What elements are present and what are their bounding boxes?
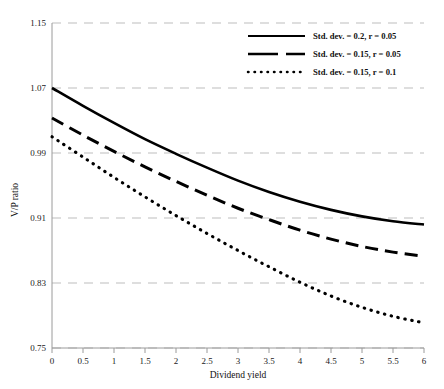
x-axis-tick-labels: 00.511.522.533.544.555.56 (50, 356, 427, 366)
x-axis-tick-label: 2 (174, 356, 179, 366)
legend-label-1: Std. dev. = 0.2, r = 0.05 (313, 31, 396, 41)
x-axis-tick-label: 3.5 (263, 356, 275, 366)
y-axis-tick-label: 0.91 (30, 213, 46, 223)
x-axis-tick-label: 2.5 (201, 356, 213, 366)
y-axis-tick-label: 0.99 (30, 148, 46, 158)
x-axis-tick-label: 6 (422, 356, 427, 366)
x-axis-tick-label: 5 (360, 356, 365, 366)
y-axis-title: V/P ratio (10, 183, 20, 217)
x-axis-tick-label: 1.5 (139, 356, 151, 366)
y-axis-tick-label: 1.15 (30, 18, 46, 28)
x-axis-tick-label: 0.5 (77, 356, 89, 366)
y-axis-tick-label: 0.75 (30, 343, 46, 353)
x-axis-tick-label: 4 (298, 356, 303, 366)
x-axis-tick-label: 4.5 (325, 356, 337, 366)
legend-label-3: Std. dev. = 0.15, r = 0.1 (313, 67, 396, 77)
series-line-2 (52, 118, 424, 256)
vp-ratio-line-chart: 00.511.522.533.544.555.56 1.151.070.990.… (0, 0, 444, 389)
x-axis-tick-label: 1 (112, 356, 117, 366)
y-axis-tick-labels: 1.151.070.990.910.830.75 (30, 18, 46, 353)
data-series-group (52, 88, 424, 323)
y-axis-tick-label: 1.07 (30, 83, 46, 93)
series-line-3 (52, 137, 424, 323)
x-axis-tick-label: 3 (236, 356, 241, 366)
y-axis-tick-label: 0.83 (30, 278, 46, 288)
x-axis-title: Dividend yield (210, 370, 267, 380)
legend-label-2: Std. dev. = 0.15, r = 0.05 (313, 49, 401, 59)
x-axis-ticks (52, 348, 424, 353)
x-axis-tick-label: 5.5 (387, 356, 399, 366)
x-axis-tick-label: 0 (50, 356, 55, 366)
chart-container: 00.511.522.533.544.555.56 1.151.070.990.… (0, 0, 444, 389)
series-line-1 (52, 88, 424, 225)
chart-legend: Std. dev. = 0.2, r = 0.05Std. dev. = 0.1… (248, 31, 401, 77)
